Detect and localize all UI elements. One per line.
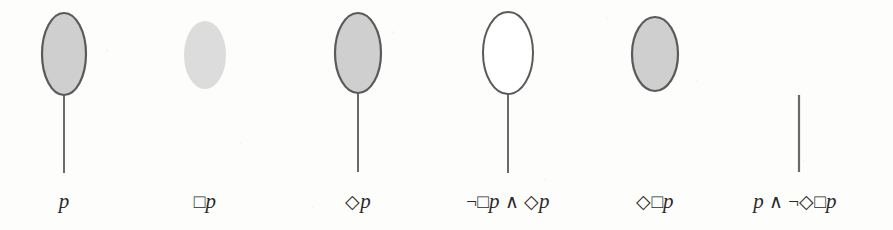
world-label: p ∧ ¬◇□p xyxy=(753,189,836,214)
proposition-symbol: p xyxy=(489,189,500,213)
proposition-symbol: p xyxy=(753,189,764,213)
modal-operator-symbol: ¬ xyxy=(466,191,477,212)
world-group xyxy=(335,13,381,172)
world-group xyxy=(42,13,86,173)
modal-operator-symbol: ¬ xyxy=(788,191,799,212)
world-group xyxy=(632,17,678,91)
modal-operator-symbol: ◇ xyxy=(799,191,814,212)
modal-operator-symbol: □ xyxy=(651,191,663,212)
modal-operator-symbol: ◇ xyxy=(345,191,360,212)
proposition-symbol: p xyxy=(663,189,674,213)
modal-operator-symbol: □ xyxy=(814,191,826,212)
proposition-symbol: p xyxy=(205,189,216,213)
world-ellipse xyxy=(184,21,226,89)
world-label: □p xyxy=(194,189,216,214)
modal-operator-symbol: ∧ xyxy=(500,191,524,212)
modal-operator-symbol: ∧ xyxy=(764,191,788,212)
proposition-symbol: p xyxy=(360,189,371,213)
world-label: ¬□p ∧ ◇p xyxy=(466,189,549,214)
modal-operator-symbol: ◇ xyxy=(524,191,539,212)
world-label: ◇p xyxy=(345,189,371,214)
world-ellipse xyxy=(483,12,533,94)
proposition-symbol: p xyxy=(59,189,70,213)
world-label: ◇□p xyxy=(636,189,674,214)
proposition-symbol: p xyxy=(826,189,837,213)
world-ellipse xyxy=(632,17,678,91)
world-label: p xyxy=(59,189,70,214)
proposition-symbol: p xyxy=(539,189,550,213)
world-ellipse xyxy=(335,13,381,93)
world-group xyxy=(184,21,226,89)
modal-operator-symbol: ◇ xyxy=(636,191,651,212)
modal-logic-figure: p□p◇p¬□p ∧ ◇p◇□pp ∧ ¬◇□p xyxy=(0,0,893,230)
world-ellipse xyxy=(42,13,86,95)
modal-operator-symbol: □ xyxy=(477,191,489,212)
world-group xyxy=(483,12,533,173)
modal-operator-symbol: □ xyxy=(194,191,206,212)
